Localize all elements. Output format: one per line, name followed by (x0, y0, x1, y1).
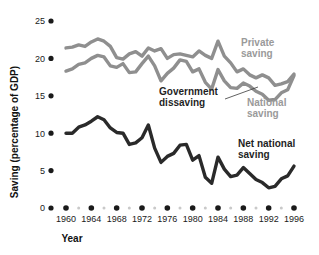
y-tick-label: 10 (35, 129, 45, 139)
x-minor-tick-dot (255, 207, 258, 210)
y-tick-dot (48, 18, 53, 23)
x-minor-tick-dot (128, 207, 131, 210)
x-minor-tick-dot (204, 207, 207, 210)
x-tick-dot (190, 205, 196, 211)
x-tick-dot (241, 205, 247, 211)
annotation-line-2: saving (238, 149, 270, 160)
x-tick-label: 1980 (183, 214, 203, 224)
x-tick-label: 1964 (81, 214, 101, 224)
x-minor-tick-dot (77, 207, 80, 210)
y-tick-label: 5 (40, 166, 45, 176)
x-tick-dot (291, 205, 297, 211)
annotation-line-1: Net national (238, 138, 295, 149)
x-tick-dot (139, 205, 145, 211)
x-tick-label: 1988 (233, 214, 253, 224)
x-tick-label: 1968 (107, 214, 127, 224)
x-minor-tick-dot (153, 207, 156, 210)
annotation-line-1: Private (241, 37, 275, 48)
x-tick-label: 1976 (157, 214, 177, 224)
annotation-line-1: National (247, 97, 287, 108)
annotation-line-1: Government (159, 86, 219, 97)
x-minor-tick-dot (229, 207, 232, 210)
x-tick-label: 1996 (284, 214, 304, 224)
x-tick-label: 1972 (132, 214, 152, 224)
x-tick-dot (215, 205, 221, 211)
y-tick-dot (48, 56, 53, 61)
chart-container: 0510152025 19601964196819721976198019841… (0, 0, 319, 255)
x-minor-tick-dot (280, 207, 283, 210)
annotation-line-2: saving (247, 108, 279, 119)
y-tick-dot (48, 131, 53, 136)
x-minor-tick-dot (103, 207, 106, 210)
y-tick-label: 25 (35, 16, 45, 26)
y-tick-dot (48, 205, 53, 210)
x-tick-dot (165, 205, 171, 211)
x-tick-dot (63, 205, 69, 211)
y-tick-label: 20 (35, 54, 45, 64)
y-tick-dot (48, 168, 53, 173)
x-tick-label: 1984 (208, 214, 228, 224)
x-tick-label: 1960 (56, 214, 76, 224)
y-tick-label: 0 (40, 203, 45, 213)
x-tick-label: 1992 (259, 214, 279, 224)
x-tick-dot (89, 205, 95, 211)
x-tick-dot (266, 205, 272, 211)
annotation-private: Privatesaving (241, 37, 275, 59)
x-axis-title: Year (61, 233, 82, 244)
y-tick-dot (48, 93, 53, 98)
x-tick-dot (114, 205, 120, 211)
y-axis-title: Saving (percentage of GDP) (9, 66, 20, 198)
annotation-line-2: dissaving (159, 97, 205, 108)
saving-line-chart: 0510152025 19601964196819721976198019841… (0, 0, 319, 255)
y-tick-label: 15 (35, 91, 45, 101)
annotation-line-2: saving (241, 48, 273, 59)
x-minor-tick-dot (179, 207, 182, 210)
